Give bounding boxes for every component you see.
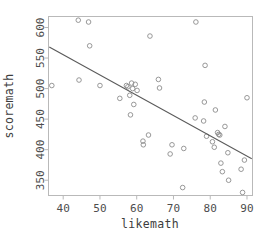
data-point [131, 102, 136, 107]
data-point [50, 83, 55, 88]
data-point [213, 108, 218, 113]
y-tick-label: 450 [34, 109, 47, 129]
data-point [219, 161, 224, 166]
data-point [210, 139, 215, 144]
data-point [77, 78, 82, 83]
data-point [76, 18, 81, 23]
data-point [226, 150, 231, 155]
data-point [239, 167, 244, 172]
data-point [130, 86, 135, 91]
y-tick-label: 550 [34, 48, 47, 68]
data-point [223, 124, 228, 129]
y-tick-label: 500 [34, 79, 47, 99]
data-point [146, 133, 151, 138]
x-tick-label: 40 [57, 202, 70, 215]
data-point [87, 44, 92, 49]
data-point [242, 158, 247, 163]
data-point [127, 93, 132, 98]
data-point [193, 116, 198, 121]
data-point [181, 146, 186, 151]
x-tick-label: 70 [167, 202, 180, 215]
x-tick-label: 60 [130, 202, 143, 215]
data-point [135, 88, 140, 93]
y-axis-title: scoremath [2, 73, 16, 138]
x-axis-tick-labels: 405060708090 [57, 202, 254, 215]
x-axis-ticks [63, 196, 247, 200]
scatterplot-figure: 405060708090 350400450500550600 likemath… [0, 0, 269, 245]
data-points-layer [50, 18, 250, 195]
data-point [203, 63, 208, 68]
data-point [245, 95, 250, 100]
data-point [202, 100, 207, 105]
data-point [156, 77, 161, 82]
data-point [180, 185, 185, 190]
x-tick-label: 90 [240, 202, 253, 215]
data-point [212, 145, 217, 150]
plot-frame [49, 17, 253, 196]
x-axis-title: likemath [121, 217, 179, 231]
regression-line-layer [49, 47, 252, 159]
data-point [226, 178, 231, 183]
x-tick-label: 80 [204, 202, 217, 215]
data-point [128, 113, 133, 118]
data-point [148, 34, 153, 39]
y-tick-label: 400 [34, 140, 47, 160]
data-point [240, 190, 245, 195]
data-point [157, 86, 162, 91]
data-point [98, 83, 103, 88]
y-axis-tick-labels: 350400450500550600 [34, 18, 47, 191]
data-point [118, 96, 123, 101]
data-point [201, 119, 206, 124]
plot-canvas: 405060708090 350400450500550600 likemath… [0, 0, 269, 245]
y-tick-label: 600 [34, 18, 47, 38]
y-tick-label: 350 [34, 170, 47, 190]
data-point [168, 152, 173, 157]
x-tick-label: 50 [93, 202, 106, 215]
regression-line [49, 47, 252, 159]
data-point [170, 142, 175, 147]
data-point [194, 20, 199, 25]
data-point [220, 169, 225, 174]
data-point [86, 20, 91, 25]
